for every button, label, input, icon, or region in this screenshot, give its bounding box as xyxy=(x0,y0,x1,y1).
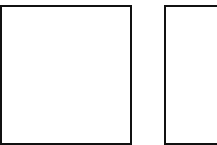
right-square-box xyxy=(164,5,217,145)
left-square-box xyxy=(0,5,132,145)
